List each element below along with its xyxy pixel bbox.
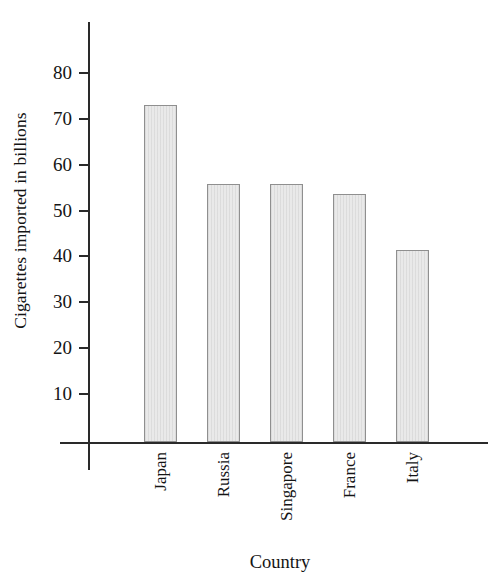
bar — [396, 250, 429, 442]
bar — [270, 184, 303, 442]
y-axis-tick-label: 80 — [34, 63, 72, 83]
bar — [333, 194, 366, 442]
x-axis-category-label: Russia — [214, 452, 234, 548]
x-axis-category-label-text: Italy — [403, 452, 423, 483]
y-axis-tick-label-text: 70 — [38, 109, 72, 128]
y-axis-tick-label: 40 — [34, 246, 72, 266]
x-axis-category-label: Japan — [151, 452, 171, 548]
y-axis-tick-label-text: 50 — [38, 201, 72, 220]
bar — [207, 184, 240, 442]
y-axis-tick-label-text: 30 — [38, 292, 72, 311]
y-axis-line — [88, 22, 90, 470]
y-axis-tick — [79, 393, 89, 395]
y-axis-tick — [79, 255, 89, 257]
y-axis-tick-label: 70 — [34, 109, 72, 129]
x-axis-category-label-text: Singapore — [277, 452, 297, 521]
y-axis-title-text: Cigarettes imported in billions — [10, 112, 31, 328]
x-axis-category-label-text: Russia — [214, 452, 234, 497]
x-axis-category-label-text: France — [340, 452, 360, 498]
y-axis-tick-label: 20 — [34, 338, 72, 358]
y-axis-tick-label-text: 80 — [38, 63, 72, 82]
y-axis-tick — [79, 72, 89, 74]
y-axis-tick-label-text: 60 — [38, 155, 72, 174]
x-axis-category-label-text: Japan — [151, 452, 171, 491]
y-axis-tick-label: 50 — [34, 201, 72, 221]
y-axis-tick — [79, 347, 89, 349]
y-axis-tick — [79, 164, 89, 166]
y-axis-tick-label-text: 40 — [38, 246, 72, 265]
y-axis-tick-label-text: 20 — [38, 338, 72, 357]
bar-chart: Cigarettes imported in billions 10203040… — [0, 0, 492, 584]
y-axis-tick-label: 10 — [34, 384, 72, 404]
x-axis-category-label: Singapore — [277, 452, 297, 548]
y-axis-tick-label: 60 — [34, 155, 72, 175]
y-axis-tick — [79, 118, 89, 120]
y-axis-tick — [79, 301, 89, 303]
x-axis-category-label: France — [340, 452, 360, 548]
x-axis-title: Country — [180, 552, 380, 573]
bar — [144, 105, 177, 442]
x-axis-line — [60, 442, 488, 444]
y-axis-tick-label: 30 — [34, 292, 72, 312]
y-axis-tick-label-text: 10 — [38, 384, 72, 403]
y-axis-tick — [79, 210, 89, 212]
x-axis-category-label: Italy — [403, 452, 423, 548]
